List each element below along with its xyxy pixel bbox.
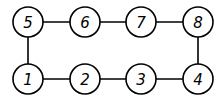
node-label: 7 — [136, 14, 146, 32]
node-label: 6 — [80, 14, 90, 32]
node-8: 8 — [183, 7, 213, 37]
node-2: 2 — [70, 64, 100, 94]
node-label: 8 — [193, 14, 203, 32]
node-4: 4 — [183, 64, 213, 94]
node-label: 5 — [23, 14, 33, 32]
node-label: 1 — [23, 71, 33, 89]
node-label: 2 — [80, 71, 90, 89]
edges — [28, 22, 198, 79]
node-5: 5 — [13, 7, 43, 37]
node-1: 1 — [13, 64, 43, 94]
node-label: 3 — [136, 71, 146, 89]
node-label: 4 — [193, 71, 203, 89]
node-6: 6 — [70, 7, 100, 37]
node-3: 3 — [126, 64, 156, 94]
nodes: 56781234 — [13, 7, 213, 94]
graph-diagram: 56781234 — [0, 0, 224, 101]
node-7: 7 — [126, 7, 156, 37]
